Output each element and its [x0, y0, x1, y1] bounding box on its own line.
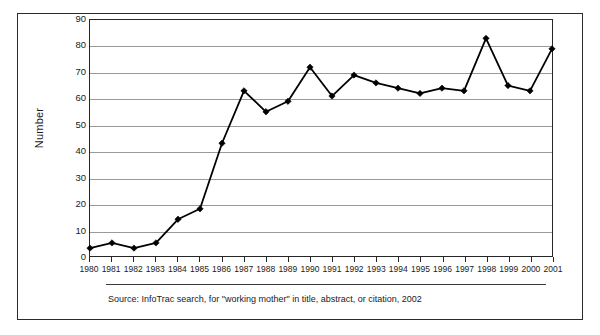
x-tick-mark	[398, 257, 399, 262]
y-tick-label: 20	[75, 199, 86, 209]
y-tick-label: 70	[75, 67, 86, 77]
x-tick-mark	[111, 257, 112, 262]
x-tick-label: 1995	[411, 264, 430, 274]
x-tick-label: 1981	[102, 264, 121, 274]
y-axis-tick-labels: 0102030405060708090	[58, 19, 86, 257]
source-separator-rule	[106, 284, 546, 285]
x-tick-mark	[509, 257, 510, 262]
y-tick-label: 0	[81, 252, 86, 262]
x-tick-label: 2000	[521, 264, 540, 274]
x-axis-tick-labels: 1980198119821983198419851986198719881989…	[89, 264, 553, 278]
x-tick-label: 1984	[168, 264, 187, 274]
y-tick-label: 40	[75, 146, 86, 156]
figure-frame: Number 0102030405060708090 1980198119821…	[17, 13, 583, 320]
y-tick-label: 60	[75, 94, 86, 104]
x-tick-label: 1987	[234, 264, 253, 274]
source-note: Source: InfoTrac search, for "working mo…	[108, 293, 422, 305]
x-tick-label: 1996	[433, 264, 452, 274]
x-axis-tick-marks	[89, 257, 553, 263]
data-point-marker	[197, 206, 203, 212]
y-tick-label: 10	[75, 226, 86, 236]
y-tick-label: 30	[75, 173, 86, 183]
x-tick-mark	[155, 257, 156, 262]
y-tick-label: 50	[75, 120, 86, 130]
series-line	[90, 38, 552, 248]
x-tick-mark	[222, 257, 223, 262]
x-tick-mark	[332, 257, 333, 262]
x-tick-label: 1989	[278, 264, 297, 274]
x-tick-label: 1994	[389, 264, 408, 274]
x-tick-label: 1990	[300, 264, 319, 274]
x-tick-mark	[133, 257, 134, 262]
x-tick-label: 1998	[477, 264, 496, 274]
data-point-marker	[131, 245, 137, 251]
data-point-marker	[505, 82, 511, 88]
x-tick-label: 1991	[323, 264, 342, 274]
x-tick-label: 1982	[124, 264, 143, 274]
data-point-marker	[373, 80, 379, 86]
y-tick-label: 80	[75, 41, 86, 51]
x-tick-mark	[420, 257, 421, 262]
x-tick-mark	[266, 257, 267, 262]
x-tick-label: 2001	[544, 264, 563, 274]
x-tick-mark	[89, 257, 90, 262]
x-tick-label: 1983	[146, 264, 165, 274]
chart-plot-region: Number 0102030405060708090 1980198119821…	[18, 14, 584, 272]
x-tick-mark	[288, 257, 289, 262]
x-tick-mark	[177, 257, 178, 262]
x-tick-mark	[199, 257, 200, 262]
data-point-marker	[527, 88, 533, 94]
x-tick-mark	[531, 257, 532, 262]
x-tick-mark	[354, 257, 355, 262]
x-tick-mark	[310, 257, 311, 262]
x-tick-mark	[443, 257, 444, 262]
data-point-marker	[483, 35, 489, 41]
y-axis-title: Number	[33, 83, 45, 173]
y-tick-label: 90	[75, 14, 86, 24]
x-tick-label: 1988	[256, 264, 275, 274]
x-tick-label: 1993	[367, 264, 386, 274]
data-point-marker	[417, 90, 423, 96]
line-series	[90, 20, 552, 256]
data-point-marker	[395, 85, 401, 91]
data-point-marker	[461, 88, 467, 94]
data-point-marker	[219, 140, 225, 146]
x-tick-mark	[376, 257, 377, 262]
data-point-marker	[109, 240, 115, 246]
x-tick-mark	[465, 257, 466, 262]
data-point-marker	[549, 46, 555, 52]
x-tick-label: 1997	[455, 264, 474, 274]
x-tick-mark	[553, 257, 554, 262]
data-point-marker	[87, 245, 93, 251]
x-tick-label: 1992	[345, 264, 364, 274]
x-tick-label: 1999	[499, 264, 518, 274]
x-tick-label: 1985	[190, 264, 209, 274]
x-tick-mark	[244, 257, 245, 262]
x-tick-label: 1980	[80, 264, 99, 274]
x-tick-label: 1986	[212, 264, 231, 274]
x-tick-mark	[487, 257, 488, 262]
data-point-marker	[439, 85, 445, 91]
plot-area	[89, 19, 553, 257]
